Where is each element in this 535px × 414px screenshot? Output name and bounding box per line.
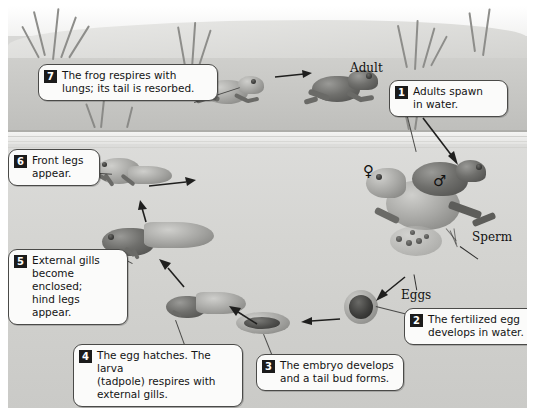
step-text-line: (tadpole) respires with <box>97 375 235 388</box>
step-text-line: Adults spawn <box>413 85 483 98</box>
step-text: Adults spawn in water. <box>413 85 483 111</box>
step-text-line: The egg hatches. The larva <box>97 349 235 375</box>
callout-step-1[interactable]: 1 Adults spawn in water. <box>389 80 508 117</box>
callout-step-3[interactable]: 3 The embryo develops and a tail bud for… <box>256 354 404 391</box>
step-text: The egg hatches. The larva (tadpole) res… <box>97 349 235 401</box>
stage-2-fertilized-egg <box>344 290 378 324</box>
step-number-badge: 1 <box>395 86 408 99</box>
arrow-tadpole-to-froglet <box>134 198 154 224</box>
step-text-line: and a tail bud forms. <box>280 372 394 385</box>
label-sperm: Sperm <box>472 230 512 244</box>
step-text-line: The frog respires with <box>62 69 194 82</box>
step-text-line: lungs; its tail is resorbed. <box>62 82 194 95</box>
step-number-badge: 3 <box>262 360 275 373</box>
step-number-badge: 7 <box>44 70 57 83</box>
arrow-embryo-to-larva <box>226 302 260 328</box>
step-text: Front legs appear. <box>32 154 83 180</box>
female-symbol: ♀ <box>363 162 374 180</box>
arrow-7-to-adult <box>274 68 314 84</box>
step-text-line: external gills. <box>97 388 235 401</box>
diagram-root: Adult ♀ ♂ <box>0 0 535 414</box>
label-adult: Adult <box>350 61 383 75</box>
step-text: The embryo develops and a tail bud forms… <box>280 359 394 385</box>
male-symbol: ♂ <box>433 172 446 190</box>
step-text: The fertilized egg develops in water. <box>428 313 524 339</box>
step-text-line: Front legs <box>32 154 83 167</box>
step-text-line: The fertilized egg <box>428 313 524 326</box>
step-text-line: appear. <box>32 167 83 180</box>
callout-step-7[interactable]: 7 The frog respires with lungs; its tail… <box>38 64 218 101</box>
spawning-pair <box>360 154 500 274</box>
step-number-badge: 4 <box>79 350 92 363</box>
pond-scene: Adult ♀ ♂ <box>8 6 527 408</box>
step-text-line: hind legs appear. <box>32 293 120 319</box>
step-text: The frog respires with lungs; its tail i… <box>62 69 194 95</box>
arrow-larva-to-tadpole <box>156 256 188 290</box>
step-text-line: develops in water. <box>428 326 524 339</box>
arrow-spawn-to-egg <box>374 274 408 304</box>
step-text-line: External gills <box>32 254 120 267</box>
step-text: External gills become enclosed; hind leg… <box>32 254 120 319</box>
arrow-egg-to-embryo <box>298 312 342 328</box>
step-text-line: become enclosed; <box>32 267 120 293</box>
arrow-froglet-to-metamorph <box>148 174 200 192</box>
callout-step-2[interactable]: 2 The fertilized egg develops in water. <box>404 308 527 345</box>
step-text-line: The embryo develops <box>280 359 394 372</box>
step-number-badge: 2 <box>410 314 423 327</box>
step-text-line: in water. <box>413 98 483 111</box>
callout-step-6[interactable]: 6 Front legs appear. <box>8 149 100 186</box>
callout-step-4[interactable]: 4 The egg hatches. The larva (tadpole) r… <box>73 344 243 407</box>
step-number-badge: 6 <box>14 155 27 168</box>
callout-step-5[interactable]: 5 External gills become enclosed; hind l… <box>8 249 128 325</box>
arrow-adult-to-spawn <box>420 116 464 168</box>
step-number-badge: 5 <box>14 255 27 268</box>
